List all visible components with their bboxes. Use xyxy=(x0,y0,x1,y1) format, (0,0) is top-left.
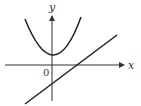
y-axis-label: y xyxy=(48,1,56,14)
graph: y x 0 xyxy=(0,0,141,106)
x-axis-label: x xyxy=(128,59,135,72)
origin-label: 0 xyxy=(43,67,49,78)
parabola-curve xyxy=(25,17,81,55)
